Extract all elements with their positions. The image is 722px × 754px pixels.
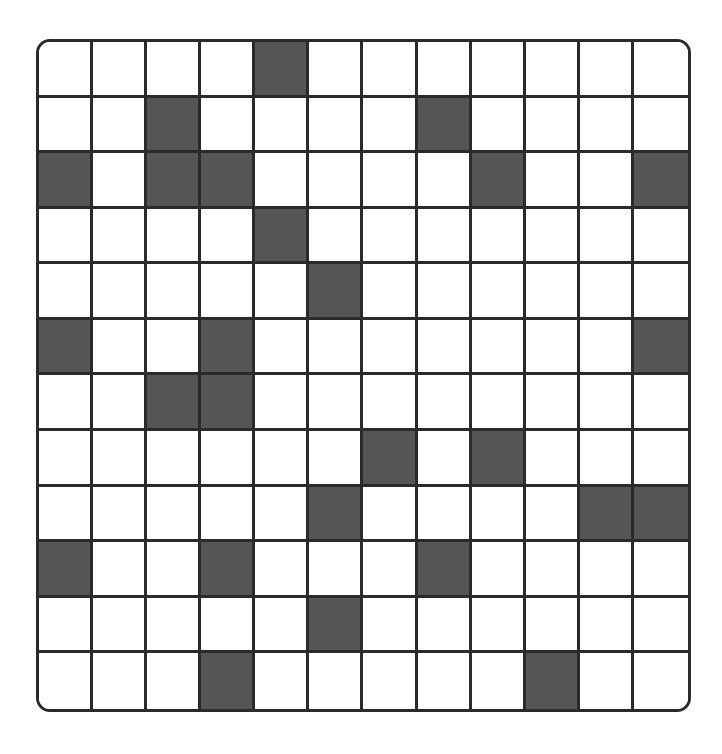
grid-cell-empty[interactable] <box>93 98 147 154</box>
grid-cell-filled[interactable] <box>147 153 201 209</box>
grid-cell-empty[interactable] <box>147 320 201 376</box>
grid-cell-empty[interactable] <box>309 153 363 209</box>
grid-cell-empty[interactable] <box>39 431 93 487</box>
grid-cell-empty[interactable] <box>255 542 309 598</box>
grid-cell-empty[interactable] <box>39 375 93 431</box>
grid-cell-empty[interactable] <box>634 542 688 598</box>
grid-cell-empty[interactable] <box>418 375 472 431</box>
grid-cell-empty[interactable] <box>93 598 147 654</box>
grid-cell-empty[interactable] <box>147 487 201 543</box>
grid-cell-filled[interactable] <box>201 153 255 209</box>
grid-cell-empty[interactable] <box>418 42 472 98</box>
grid-cell-empty[interactable] <box>526 98 580 154</box>
grid-cell-empty[interactable] <box>472 487 526 543</box>
grid-cell-filled[interactable] <box>363 431 417 487</box>
grid-cell-empty[interactable] <box>472 209 526 265</box>
grid-cell-empty[interactable] <box>93 542 147 598</box>
grid-cell-empty[interactable] <box>418 153 472 209</box>
grid-cell-empty[interactable] <box>93 320 147 376</box>
grid-cell-filled[interactable] <box>255 42 309 98</box>
grid-cell-empty[interactable] <box>201 431 255 487</box>
grid-cell-filled[interactable] <box>201 375 255 431</box>
grid-cell-empty[interactable] <box>201 209 255 265</box>
grid-cell-empty[interactable] <box>201 264 255 320</box>
grid-cell-empty[interactable] <box>363 375 417 431</box>
grid-cell-filled[interactable] <box>147 375 201 431</box>
grid-cell-empty[interactable] <box>418 653 472 709</box>
grid-cell-empty[interactable] <box>634 264 688 320</box>
grid-cell-filled[interactable] <box>580 487 634 543</box>
grid-cell-filled[interactable] <box>147 98 201 154</box>
grid-cell-empty[interactable] <box>93 153 147 209</box>
grid-cell-filled[interactable] <box>472 431 526 487</box>
grid-cell-empty[interactable] <box>418 264 472 320</box>
grid-cell-empty[interactable] <box>309 209 363 265</box>
grid-cell-empty[interactable] <box>472 653 526 709</box>
grid-cell-filled[interactable] <box>309 487 363 543</box>
grid-cell-empty[interactable] <box>580 264 634 320</box>
grid-cell-empty[interactable] <box>526 320 580 376</box>
grid-cell-empty[interactable] <box>418 209 472 265</box>
grid-cell-empty[interactable] <box>580 542 634 598</box>
grid-cell-empty[interactable] <box>580 653 634 709</box>
grid-cell-empty[interactable] <box>147 42 201 98</box>
grid-cell-empty[interactable] <box>363 598 417 654</box>
grid-cell-empty[interactable] <box>363 653 417 709</box>
grid-cell-empty[interactable] <box>526 153 580 209</box>
grid-cell-empty[interactable] <box>309 98 363 154</box>
grid-cell-empty[interactable] <box>363 320 417 376</box>
grid-cell-empty[interactable] <box>363 209 417 265</box>
grid-cell-filled[interactable] <box>309 598 363 654</box>
grid-cell-empty[interactable] <box>201 487 255 543</box>
grid-cell-empty[interactable] <box>363 153 417 209</box>
grid-cell-empty[interactable] <box>418 431 472 487</box>
grid-cell-empty[interactable] <box>580 98 634 154</box>
grid-cell-filled[interactable] <box>201 320 255 376</box>
grid-cell-empty[interactable] <box>580 598 634 654</box>
grid-cell-empty[interactable] <box>93 375 147 431</box>
grid-cell-empty[interactable] <box>363 487 417 543</box>
grid-cell-empty[interactable] <box>93 431 147 487</box>
grid-cell-empty[interactable] <box>39 487 93 543</box>
grid-cell-filled[interactable] <box>309 264 363 320</box>
grid-cell-empty[interactable] <box>472 320 526 376</box>
grid-cell-empty[interactable] <box>472 542 526 598</box>
grid-cell-filled[interactable] <box>418 542 472 598</box>
grid-cell-empty[interactable] <box>39 209 93 265</box>
grid-cell-empty[interactable] <box>363 264 417 320</box>
grid-cell-empty[interactable] <box>309 431 363 487</box>
grid-cell-empty[interactable] <box>93 653 147 709</box>
grid-cell-empty[interactable] <box>634 598 688 654</box>
grid-cell-empty[interactable] <box>309 542 363 598</box>
grid-cell-empty[interactable] <box>526 431 580 487</box>
grid-cell-empty[interactable] <box>526 487 580 543</box>
grid-cell-empty[interactable] <box>201 98 255 154</box>
grid-cell-filled[interactable] <box>39 542 93 598</box>
grid-cell-empty[interactable] <box>39 98 93 154</box>
grid-cell-empty[interactable] <box>580 431 634 487</box>
grid-cell-empty[interactable] <box>580 42 634 98</box>
grid-cell-filled[interactable] <box>634 153 688 209</box>
grid-cell-filled[interactable] <box>39 320 93 376</box>
grid-cell-empty[interactable] <box>309 42 363 98</box>
grid-cell-empty[interactable] <box>634 209 688 265</box>
grid-cell-empty[interactable] <box>255 653 309 709</box>
grid-cell-empty[interactable] <box>93 264 147 320</box>
grid-cell-empty[interactable] <box>634 375 688 431</box>
grid-cell-empty[interactable] <box>580 320 634 376</box>
grid-cell-empty[interactable] <box>147 264 201 320</box>
grid-cell-filled[interactable] <box>418 98 472 154</box>
grid-cell-empty[interactable] <box>526 542 580 598</box>
grid-cell-empty[interactable] <box>526 598 580 654</box>
grid-cell-filled[interactable] <box>472 153 526 209</box>
grid-cell-filled[interactable] <box>39 153 93 209</box>
grid-cell-empty[interactable] <box>363 542 417 598</box>
grid-cell-empty[interactable] <box>526 264 580 320</box>
grid-cell-empty[interactable] <box>147 598 201 654</box>
grid-cell-empty[interactable] <box>93 487 147 543</box>
grid-cell-empty[interactable] <box>147 431 201 487</box>
grid-cell-empty[interactable] <box>472 42 526 98</box>
grid-cell-empty[interactable] <box>255 375 309 431</box>
grid-cell-empty[interactable] <box>363 42 417 98</box>
grid-cell-empty[interactable] <box>472 98 526 154</box>
